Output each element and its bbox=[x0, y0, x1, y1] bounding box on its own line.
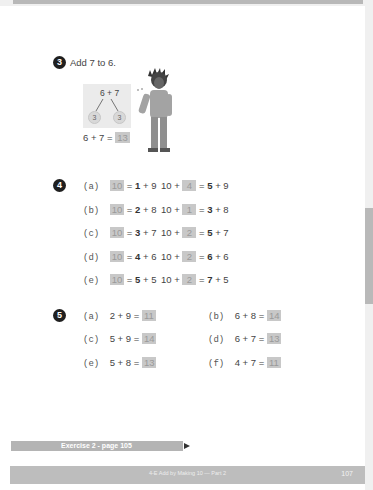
bond-part-2: 3 bbox=[113, 111, 126, 124]
q4-row-d-right: 10 + 2 = 6 + 6 bbox=[161, 251, 229, 262]
bold-addend: 2 bbox=[135, 204, 140, 215]
bold-addend: 1 bbox=[135, 180, 140, 191]
expression: 5 + 8 = bbox=[110, 357, 140, 368]
top-bar bbox=[13, 0, 363, 4]
answer-box: 11 bbox=[267, 357, 281, 368]
q4-row-b-right: 10 + 1 = 3 + 8 bbox=[161, 204, 229, 215]
chapter-side-tab bbox=[365, 208, 373, 304]
addend-text: + 8 bbox=[215, 204, 228, 215]
exercise-link[interactable]: Exercise 2 - page 105 bbox=[11, 441, 183, 451]
arrow-right-icon bbox=[184, 443, 190, 449]
answer-box: 10 bbox=[110, 204, 125, 215]
answer-box: 10 bbox=[110, 274, 125, 285]
expression: 6 + 8 = bbox=[235, 310, 265, 321]
number-bond-diagram: 6 + 7 3 3 bbox=[83, 84, 131, 128]
row-label: (c) bbox=[83, 229, 107, 239]
page-number: 107 bbox=[341, 470, 353, 477]
answer-box: 2 bbox=[182, 251, 196, 262]
addend-text: + 9 bbox=[215, 180, 228, 191]
bold-addend: 3 bbox=[135, 227, 140, 238]
question-5-badge: 5 bbox=[53, 309, 66, 322]
item-label: (d) bbox=[208, 335, 232, 345]
row-label: (d) bbox=[83, 253, 107, 263]
item-label: (c) bbox=[83, 335, 107, 345]
bold-addend: 4 bbox=[135, 251, 140, 262]
q5-item-d: (d) 6 + 7 = 13 bbox=[208, 333, 281, 345]
prefix-text: 10 + bbox=[161, 251, 180, 262]
addend-text: + 8 bbox=[143, 204, 156, 215]
expression: 5 + 9 = bbox=[110, 333, 140, 344]
q5-item-c: (c) 5 + 9 = 14 bbox=[83, 333, 156, 345]
addend-text: + 5 bbox=[143, 274, 156, 285]
question-4-badge: 4 bbox=[53, 179, 66, 192]
row-label: (e) bbox=[83, 276, 107, 286]
addend-text: + 7 bbox=[143, 227, 156, 238]
question-3-equation: 6 + 7 = 13 bbox=[83, 132, 130, 143]
q4-row-c: (c) 10 = 3 + 7 bbox=[83, 227, 156, 239]
q4-row-c-right: 10 + 2 = 5 + 7 bbox=[161, 227, 229, 238]
question-3-prompt: Add 7 to 6. bbox=[70, 57, 116, 68]
answer-box: 14 bbox=[267, 310, 282, 321]
item-label: (e) bbox=[83, 359, 107, 369]
addend-text: + 6 bbox=[143, 251, 156, 262]
answer-box: 13 bbox=[142, 357, 157, 368]
prefix-text: 10 + bbox=[161, 180, 180, 191]
q4-row-e-right: 10 + 2 = 7 + 5 bbox=[161, 274, 229, 285]
page-footer: 4-E Add by Making 10 — Part 2 107 bbox=[10, 466, 365, 484]
addend-text: + 9 bbox=[143, 180, 156, 191]
expression: 2 + 9 = bbox=[110, 310, 140, 321]
answer-box: 4 bbox=[182, 180, 196, 191]
item-label: (f) bbox=[208, 359, 232, 369]
q4-row-a: (a) 10 = 1 + 9 bbox=[83, 180, 156, 192]
bond-part-1: 3 bbox=[88, 111, 101, 124]
row-label: (b) bbox=[83, 206, 107, 216]
q4-row-a-right: 10 + 4 = 5 + 9 bbox=[161, 180, 229, 191]
addend-text: + 6 bbox=[215, 251, 228, 262]
answer-box: 13 bbox=[115, 132, 130, 143]
answer-box: 13 bbox=[267, 333, 282, 344]
answer-box: 10 bbox=[110, 251, 125, 262]
bold-addend: 6 bbox=[207, 251, 212, 262]
item-label: (a) bbox=[83, 312, 107, 322]
prefix-text: 10 + bbox=[161, 227, 180, 238]
bold-addend: 5 bbox=[207, 227, 212, 238]
q5-item-b: (b) 6 + 8 = 14 bbox=[208, 310, 281, 322]
bold-addend: 5 bbox=[207, 180, 212, 191]
q5-item-a: (a) 2 + 9 = 11 bbox=[83, 310, 156, 322]
q4-row-e: (e) 10 = 5 + 5 bbox=[83, 274, 156, 286]
question-3-badge: 3 bbox=[53, 56, 66, 69]
addend-text: + 5 bbox=[215, 274, 228, 285]
answer-box: 2 bbox=[182, 274, 196, 285]
q4-row-b: (b) 10 = 2 + 8 bbox=[83, 204, 156, 216]
q4-row-d: (d) 10 = 4 + 6 bbox=[83, 251, 156, 263]
answer-box: 10 bbox=[110, 227, 125, 238]
bold-addend: 7 bbox=[207, 274, 212, 285]
q5-item-f: (f) 4 + 7 = 11 bbox=[208, 357, 281, 369]
answer-box: 2 bbox=[182, 227, 196, 238]
expression: 6 + 7 = bbox=[235, 333, 265, 344]
answer-box: 1 bbox=[182, 204, 196, 215]
answer-box: 10 bbox=[110, 180, 125, 191]
answer-box: 14 bbox=[142, 333, 157, 344]
bold-addend: 5 bbox=[135, 274, 140, 285]
textbook-page: 3 Add 7 to 6. 6 + 7 3 3 6 + 7 = 13 4 (a)… bbox=[0, 6, 365, 490]
expression: 4 + 7 = bbox=[235, 357, 265, 368]
prefix-text: 10 + bbox=[161, 204, 180, 215]
footer-title: 4-E Add by Making 10 — Part 2 bbox=[10, 470, 365, 476]
row-label: (a) bbox=[83, 182, 107, 192]
addend-text: + 7 bbox=[215, 227, 228, 238]
bold-addend: 3 bbox=[207, 204, 212, 215]
child-illustration-icon bbox=[128, 62, 178, 158]
answer-box: 11 bbox=[142, 310, 156, 321]
item-label: (b) bbox=[208, 312, 232, 322]
prefix-text: 10 + bbox=[161, 274, 180, 285]
q5-item-e: (e) 5 + 8 = 13 bbox=[83, 357, 156, 369]
equation-text: 6 + 7 = bbox=[83, 132, 113, 143]
